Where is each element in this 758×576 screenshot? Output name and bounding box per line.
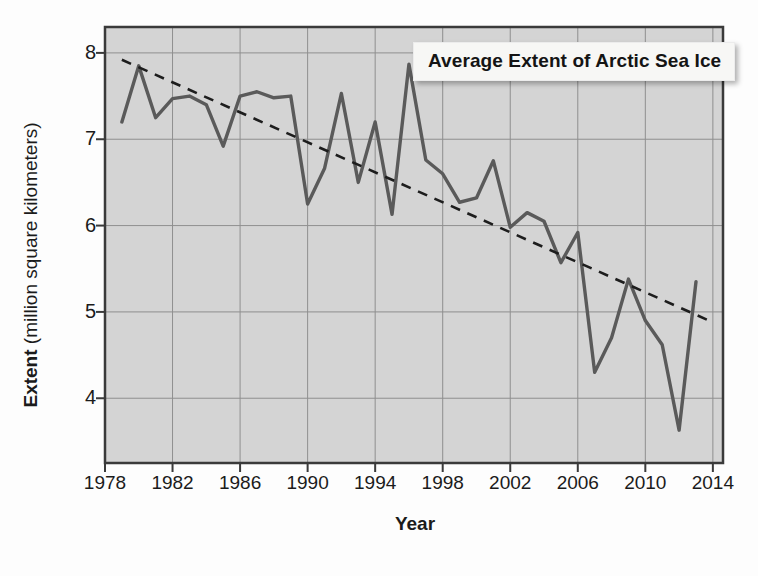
x-tick-label: 2014 bbox=[678, 472, 748, 494]
x-tick-label: 2006 bbox=[543, 472, 613, 494]
x-tick-label: 1994 bbox=[340, 472, 410, 494]
chart-title-box: Average Extent of Arctic Sea Ice bbox=[413, 42, 735, 81]
chart-figure: Extent (million square kilometers) 45678… bbox=[0, 0, 758, 576]
x-tick-label: 1986 bbox=[205, 472, 275, 494]
x-axis-title: Year bbox=[105, 513, 725, 535]
x-tick-label: 1990 bbox=[273, 472, 343, 494]
x-tick-label-group: 1978198219861990199419982002200620102014 bbox=[0, 0, 758, 576]
chart-title: Average Extent of Arctic Sea Ice bbox=[428, 50, 721, 72]
x-tick-label: 1998 bbox=[408, 472, 478, 494]
x-tick-label: 1982 bbox=[138, 472, 208, 494]
x-tick-label: 2002 bbox=[475, 472, 545, 494]
x-tick-label: 1978 bbox=[70, 472, 140, 494]
x-tick-label: 2010 bbox=[610, 472, 680, 494]
